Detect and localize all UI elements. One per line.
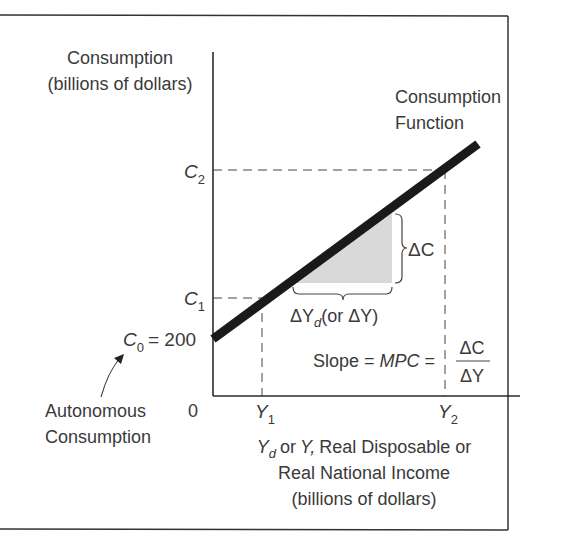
slope-formula: Slope = MPC = <box>313 351 435 371</box>
frame-bottom <box>0 529 508 530</box>
curve-label-line1: Consumption <box>395 87 501 107</box>
c2-tick-label: C2 <box>184 161 205 187</box>
c0-tick-label: C0= 200 <box>123 329 196 355</box>
x-axis-label-line1: YdorY,Real Disposable or <box>257 437 472 461</box>
delta-c-brace <box>395 214 407 283</box>
y-axis-label-line1: Consumption <box>67 48 173 68</box>
slope-numerator: ΔC <box>459 338 484 358</box>
frame-top <box>0 15 508 16</box>
delta-y-label: ΔYd(or ΔY) <box>290 306 378 330</box>
origin-label: 0 <box>188 401 198 421</box>
x-axis-label-line2: Real National Income <box>278 463 450 483</box>
slope-denominator: ΔY <box>460 366 484 386</box>
c1-tick-label: C1 <box>184 288 205 314</box>
y2-tick-label: Y2 <box>438 401 458 427</box>
consumption-function-diagram: Consumption (billions of dollars) Consum… <box>0 0 572 555</box>
x-axis-label-line3: (billions of dollars) <box>291 489 436 509</box>
annotation-line1: Autonomous <box>45 401 146 421</box>
delta-y-brace <box>293 287 392 300</box>
y1-tick-label: Y1 <box>255 401 275 427</box>
autonomous-arrow <box>101 358 120 397</box>
curve-label-line2: Function <box>395 113 464 133</box>
delta-c-label: ΔC <box>408 239 434 260</box>
y-axis-label-line2: (billions of dollars) <box>47 74 192 94</box>
arrow-head-icon <box>114 354 124 364</box>
annotation-line2: Consumption <box>45 427 151 447</box>
